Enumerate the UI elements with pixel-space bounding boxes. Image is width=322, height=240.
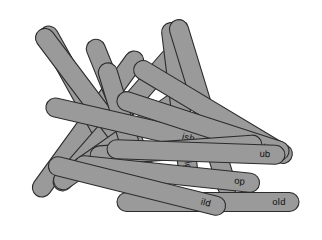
craft-stick-scene: entestayanigallishetustubopoldild: [0, 0, 322, 240]
stick-label-old: old: [272, 196, 285, 207]
stick-label-ub: ub: [259, 148, 270, 159]
stick-pile-canvas: entestayanigallishetustubopoldild: [0, 0, 322, 240]
stick-label-op: op: [234, 175, 246, 187]
